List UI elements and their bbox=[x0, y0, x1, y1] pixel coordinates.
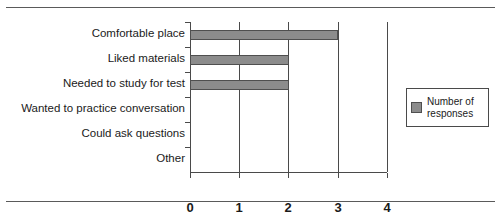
gridline-3 bbox=[338, 22, 339, 172]
legend-label-number-of-responses: Number of responses bbox=[427, 96, 474, 119]
category-label-comfortable-place: Comfortable place bbox=[92, 27, 185, 39]
legend-swatch-number-of-responses bbox=[411, 102, 422, 113]
x-tick-label-3: 3 bbox=[326, 200, 350, 215]
x-tick-1 bbox=[239, 173, 240, 178]
category-label-liked-materials: Liked materials bbox=[108, 52, 185, 64]
x-tick-label-4: 4 bbox=[375, 200, 399, 215]
category-label-needed-to-study-for-test: Needed to study for test bbox=[63, 77, 185, 89]
legend-label-line2: responses bbox=[427, 108, 473, 119]
legend-label-line1: Number of bbox=[427, 96, 474, 107]
bar-liked-materials bbox=[190, 55, 289, 65]
bar-comfortable-place bbox=[190, 30, 338, 40]
y-tick-4 bbox=[185, 122, 190, 123]
bar-chart-figure: Comfortable place Liked materials Needed… bbox=[0, 0, 501, 215]
y-tick-1 bbox=[185, 47, 190, 48]
category-label-wanted-to-practice-conversation: Wanted to practice conversation bbox=[21, 102, 185, 114]
plot-area: 0 1 2 3 4 bbox=[190, 22, 387, 173]
gridline-4 bbox=[387, 22, 388, 172]
x-tick-4 bbox=[387, 173, 388, 178]
bar-needed-to-study-for-test bbox=[190, 80, 289, 90]
y-tick-5 bbox=[185, 147, 190, 148]
y-axis-line bbox=[190, 22, 191, 173]
x-tick-0 bbox=[190, 173, 191, 178]
x-tick-label-0: 0 bbox=[178, 200, 202, 215]
category-label-other: Other bbox=[156, 152, 185, 164]
y-tick-0 bbox=[185, 22, 190, 23]
chart-legend: Number of responses bbox=[406, 88, 489, 127]
x-tick-label-1: 1 bbox=[227, 200, 251, 215]
x-tick-3 bbox=[338, 173, 339, 178]
x-tick-label-2: 2 bbox=[276, 200, 300, 215]
y-tick-3 bbox=[185, 97, 190, 98]
category-label-could-ask-questions: Could ask questions bbox=[81, 127, 185, 139]
gridline-2 bbox=[288, 22, 289, 172]
gridline-1 bbox=[239, 22, 240, 172]
y-tick-2 bbox=[185, 72, 190, 73]
x-tick-2 bbox=[288, 173, 289, 178]
top-divider-rule bbox=[6, 7, 495, 8]
